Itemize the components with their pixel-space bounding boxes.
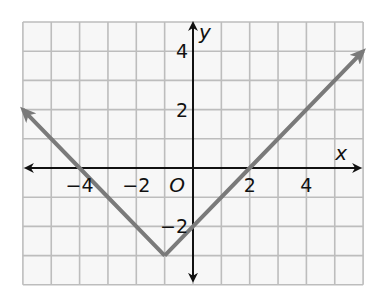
x-axis-label: x <box>334 141 347 165</box>
origin-label: O <box>169 173 185 197</box>
x-tick-label: −4 <box>66 174 94 196</box>
y-tick-label: −2 <box>160 215 188 237</box>
y-tick-label: 4 <box>176 40 188 62</box>
x-tick-label: −2 <box>122 174 150 196</box>
graph-figure: −4−22442−2Oxy <box>0 0 378 302</box>
x-tick-label: 4 <box>300 174 312 196</box>
x-tick-label: 2 <box>244 174 256 196</box>
y-tick-label: 2 <box>176 99 188 121</box>
y-axis-label: y <box>198 20 212 44</box>
coordinate-plane: −4−22442−2Oxy <box>0 0 378 302</box>
